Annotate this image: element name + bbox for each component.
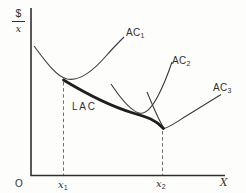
cost-curves-figure: $ x O x1 x2 X AC1 AC2 AC3 LAC: [0, 0, 246, 193]
x-axis-label: X: [220, 177, 227, 188]
ac2-label-text: AC: [172, 55, 187, 66]
ac3-label-text: AC: [213, 82, 228, 93]
x2-tick-base: x: [156, 178, 162, 189]
fraction-bar: [12, 21, 25, 22]
ac2-label-subscript: 2: [187, 60, 191, 67]
y-axis-denominator: x: [10, 23, 27, 34]
ac1-label-text: AC: [126, 27, 141, 38]
ac3-label-subscript: 3: [228, 87, 232, 94]
x1-tick-subscript: 1: [64, 184, 68, 191]
ac1-curve: [34, 37, 124, 79]
x2-tick-subscript: 2: [162, 183, 166, 190]
lac-curve-label: LAC: [72, 102, 97, 112]
x1-tick-base: x: [58, 179, 64, 190]
ac1-curve-label: AC1: [126, 28, 144, 38]
ac1-label-subscript: 1: [141, 32, 145, 39]
ac2-curve-label: AC2: [172, 56, 190, 66]
x1-tick-label: x1: [58, 180, 68, 190]
figure-canvas: [0, 0, 246, 193]
x2-tick-label: x2: [156, 179, 166, 189]
ac2-curve: [111, 62, 172, 113]
y-axis-label: $ x: [10, 8, 27, 33]
ac3-curve-label: AC3: [213, 83, 231, 93]
y-axis-numerator: $: [10, 8, 27, 20]
origin-label: O: [15, 179, 23, 189]
